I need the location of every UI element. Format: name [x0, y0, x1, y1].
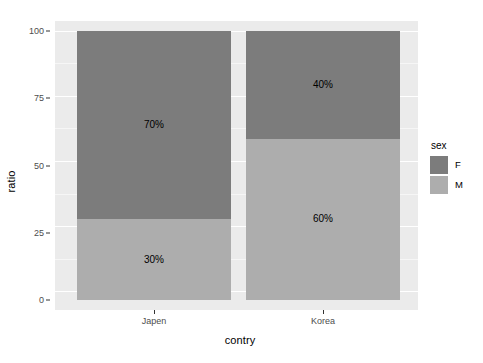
- y-tick-label-100: 100: [29, 26, 44, 36]
- y-axis-ticks: 100 75 50 25 0: [22, 31, 50, 300]
- bar-segment-korea-f[interactable]: 40%: [246, 31, 400, 139]
- y-tick-mark-100: [46, 31, 50, 32]
- x-axis-title-text: contry: [225, 334, 256, 346]
- bar-label-korea-m: 60%: [313, 214, 333, 224]
- x-axis-title: contry: [61, 334, 419, 346]
- x-tick-mark-korea: [323, 310, 324, 314]
- legend-item-m[interactable]: M: [430, 175, 480, 194]
- legend-key-f-icon: [430, 156, 448, 174]
- legend-label-m: M: [455, 179, 463, 190]
- bar-segment-korea-m[interactable]: 60%: [246, 139, 400, 300]
- bar-segment-japen-m[interactable]: 30%: [77, 219, 231, 300]
- x-tick-mark-japen: [154, 310, 155, 314]
- legend-label-f: F: [455, 159, 461, 170]
- x-tick-label-korea: Korea: [311, 316, 335, 326]
- plot-panel: 70% 30% 40% 60%: [55, 21, 418, 310]
- y-tick-label-0: 0: [39, 295, 44, 305]
- y-axis-title-text: ratio: [5, 171, 17, 193]
- bar-label-japen-f: 70%: [144, 120, 164, 130]
- legend: sex F M: [430, 140, 480, 195]
- y-tick-label-75: 75: [34, 93, 44, 103]
- bar-korea[interactable]: 40% 60%: [246, 31, 400, 300]
- bar-label-japen-m: 30%: [144, 255, 164, 265]
- chart-root: ratio 100 75 50 25 0 70% 30%: [0, 0, 483, 363]
- y-tick-mark-50: [46, 165, 50, 166]
- legend-item-f[interactable]: F: [430, 155, 480, 174]
- y-tick-mark-0: [46, 300, 50, 301]
- bar-segment-japen-f[interactable]: 70%: [77, 31, 231, 219]
- y-tick-label-25: 25: [34, 228, 44, 238]
- bar-japen[interactable]: 70% 30%: [77, 31, 231, 300]
- legend-title: sex: [431, 140, 480, 151]
- legend-key-m-icon: [430, 176, 448, 194]
- y-tick-mark-75: [46, 98, 50, 99]
- y-tick-label-50: 50: [34, 161, 44, 171]
- bar-label-korea-f: 40%: [313, 80, 333, 90]
- y-tick-mark-25: [46, 232, 50, 233]
- x-tick-label-japen: Japen: [142, 316, 167, 326]
- y-axis-title: ratio: [0, 0, 22, 363]
